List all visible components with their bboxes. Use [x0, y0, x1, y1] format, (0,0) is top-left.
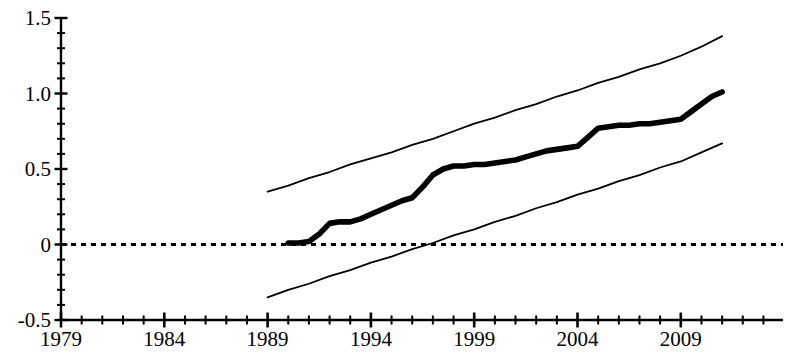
x-axis-tick-label: 1999	[453, 329, 495, 350]
y-axis-tick-label: 1.5	[0, 8, 51, 29]
y-axis-tick-label: 0.5	[0, 159, 51, 180]
x-axis-tick-label: 1989	[247, 329, 289, 350]
x-axis-tick-label: 2009	[660, 329, 702, 350]
y-axis-tick-label: 0	[0, 234, 51, 255]
chart-container: 1.51.00.50-0.5 1979198419891994199920042…	[0, 0, 794, 355]
chart-axes	[61, 18, 783, 320]
y-axis-ticks	[55, 18, 68, 320]
x-axis-tick-label: 2004	[557, 329, 599, 350]
y-axis-tick-label: 1.0	[0, 83, 51, 104]
chart-plot-area	[0, 0, 794, 355]
x-axis-tick-label: 1984	[143, 329, 185, 350]
upper-confidence-band	[268, 36, 723, 192]
x-axis-tick-label: 1994	[350, 329, 392, 350]
x-axis-tick-label: 1979	[40, 329, 82, 350]
chart-series-group	[268, 36, 723, 297]
